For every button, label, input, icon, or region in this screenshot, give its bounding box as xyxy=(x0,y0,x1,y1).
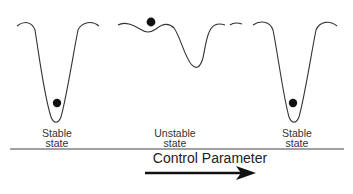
ball-right-icon xyxy=(289,99,297,107)
state-label-unstable-middle: Unstable state xyxy=(148,128,202,148)
state-label-line2: state xyxy=(33,138,81,148)
ball-left-icon xyxy=(53,99,61,107)
unstable-landscape-curve xyxy=(118,23,225,67)
stable-well-right-main-curve xyxy=(253,22,337,122)
state-label-line2: state xyxy=(148,138,202,148)
control-parameter-label: Control Parameter xyxy=(140,150,280,166)
ball-middle-icon xyxy=(147,18,156,27)
state-label-stable-right: Stable state xyxy=(273,128,321,148)
stable-well-right-curve xyxy=(230,23,242,25)
stable-well-left-curve xyxy=(17,23,99,123)
state-label-stable-left: Stable state xyxy=(33,128,81,148)
state-label-line2: state xyxy=(273,138,321,148)
